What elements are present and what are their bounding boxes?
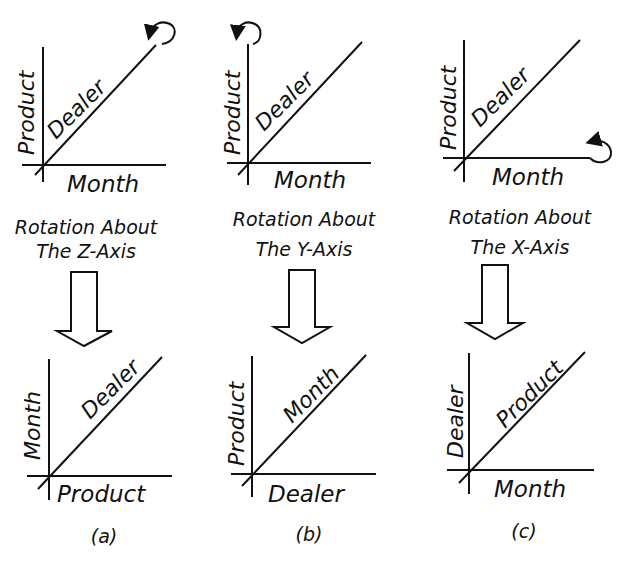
horizontal-axis-label: Product	[57, 481, 146, 507]
diagonal-axis	[238, 42, 362, 175]
diagonal-axis-label: Month	[278, 361, 344, 427]
vertical-axis-label: Product	[220, 69, 245, 155]
rotation-text-a-line1: Rotation About	[15, 216, 159, 238]
diagonal-axis-label: Dealer	[76, 353, 146, 423]
vertical-axis-label: Product	[14, 69, 39, 155]
rotation-arrow-icon	[237, 22, 260, 44]
diagonal-axis	[38, 357, 162, 489]
diagonal-axis-label: Product	[491, 354, 569, 432]
horizontal-axis-label: Dealer	[268, 481, 345, 507]
horizontal-axis-label: Month	[274, 167, 346, 193]
down-arrow-icon	[274, 270, 330, 343]
vertical-axis-label: Month	[20, 391, 45, 460]
horizontal-axis-label: Month	[494, 476, 566, 502]
caption-b: (b)	[296, 523, 323, 545]
panel-c-after: Dealer Product Month	[443, 352, 594, 502]
diagonal-axis	[242, 355, 366, 486]
rotation-text-b-line1: Rotation About	[233, 208, 377, 230]
panel-a-before: Product Dealer Month	[14, 22, 175, 197]
horizontal-axis-label: Month	[67, 171, 139, 197]
vertical-axis-label: Product	[224, 380, 249, 466]
cube-rotation-diagram: Product Dealer Month Rotation About The …	[0, 0, 622, 566]
diagonal-axis-label: Dealer	[42, 73, 112, 143]
panel-c-before: Product Dealer Month	[436, 40, 611, 190]
rotation-text-c-line2: The X-Axis	[471, 236, 570, 258]
rotation-arrow-icon	[150, 22, 175, 44]
down-arrow-icon	[57, 272, 112, 346]
panel-b-after: Product Month Dealer	[224, 355, 376, 507]
panel-a-after: Month Dealer Product	[20, 353, 172, 507]
vertical-axis-label: Dealer	[443, 383, 468, 458]
rotation-text-b-line2: The Y-Axis	[256, 238, 353, 260]
rotation-text-c-line1: Rotation About	[449, 206, 593, 228]
horizontal-axis-label: Month	[492, 164, 564, 190]
rotation-arrow-icon	[590, 140, 611, 162]
caption-a: (a)	[91, 525, 117, 547]
caption-c: (c)	[511, 520, 536, 542]
diagonal-axis	[35, 45, 156, 175]
rotation-text-a-line2: The Z-Axis	[36, 240, 136, 262]
vertical-axis-label: Product	[436, 64, 461, 150]
panel-b-before: Product Dealer Month	[220, 22, 371, 193]
down-arrow-icon	[467, 265, 523, 339]
